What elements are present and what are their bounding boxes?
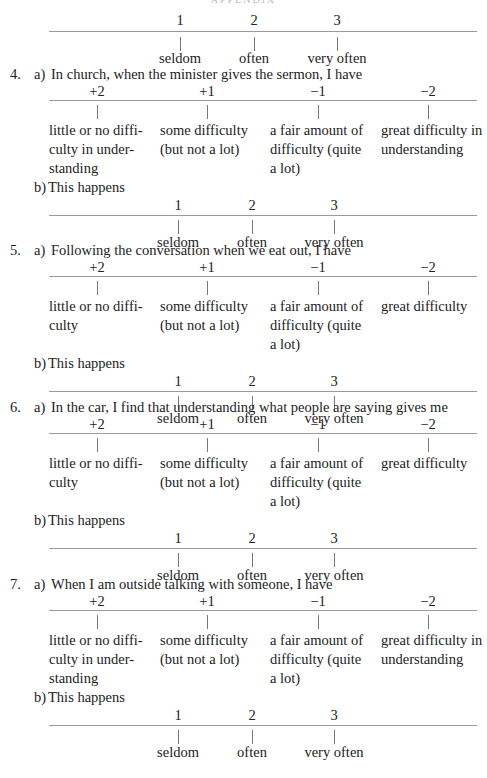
difficulty-tick-4[interactable] <box>428 105 429 119</box>
difficulty-number: −1 <box>298 259 338 275</box>
difficulty-tick-2[interactable] <box>207 438 208 452</box>
question-number: 4. <box>10 65 34 83</box>
difficulty-option-3[interactable]: a fair amount ofdifficulty (quitea lot) <box>270 454 374 511</box>
difficulty-tick-1[interactable] <box>97 105 98 119</box>
part-marker: a) <box>34 65 51 83</box>
question-prompt: 6.a)In the car, I find that understandin… <box>10 398 448 416</box>
part-marker: b) <box>34 688 48 706</box>
option-line: culty <box>49 473 153 492</box>
difficulty-tick-2[interactable] <box>207 615 208 629</box>
frequency-tick-3[interactable] <box>334 220 335 234</box>
option-line: culty in under- <box>49 650 153 669</box>
difficulty-option-1[interactable]: little or no diffi-culty in under-standi… <box>49 631 153 688</box>
scale-number: 1 <box>160 12 200 28</box>
option-line: (but not a lot) <box>160 316 264 335</box>
option-line: great difficulty <box>381 454 485 473</box>
difficulty-number: −1 <box>298 83 338 99</box>
difficulty-tick-1[interactable] <box>97 615 98 629</box>
option-line: little or no diffi- <box>49 631 153 650</box>
option-line: some difficulty <box>160 297 264 316</box>
option-line: difficulty (quite <box>270 650 374 669</box>
difficulty-option-3[interactable]: a fair amount ofdifficulty (quitea lot) <box>270 631 374 688</box>
frequency-scale-rule <box>49 391 477 392</box>
frequency-tick-3[interactable] <box>334 553 335 567</box>
part-marker: a) <box>34 575 51 593</box>
difficulty-tick-3[interactable] <box>318 438 319 452</box>
difficulty-option-2[interactable]: some difficulty(but not a lot) <box>160 631 264 669</box>
difficulty-tick-3[interactable] <box>318 615 319 629</box>
option-line: a fair amount of <box>270 297 374 316</box>
scale-tick-1[interactable] <box>180 37 181 51</box>
option-line: understanding <box>381 140 485 159</box>
scale-label: very often <box>292 50 382 66</box>
frequency-tick-1[interactable] <box>178 220 179 234</box>
question-number: 7. <box>10 575 34 593</box>
option-line: little or no diffi- <box>49 297 153 316</box>
option-line: a fair amount of <box>270 121 374 140</box>
difficulty-tick-2[interactable] <box>207 105 208 119</box>
difficulty-number: −1 <box>298 593 338 609</box>
frequency-number: 3 <box>314 530 354 546</box>
option-line: great difficulty in <box>381 631 485 650</box>
frequency-tick-2[interactable] <box>252 220 253 234</box>
difficulty-option-4[interactable]: great difficulty <box>381 454 485 473</box>
difficulty-number: −2 <box>408 593 448 609</box>
difficulty-option-2[interactable]: some difficulty(but not a lot) <box>160 121 264 159</box>
part-marker: a) <box>34 398 51 416</box>
difficulty-scale-rule <box>49 433 477 434</box>
frequency-tick-1[interactable] <box>178 553 179 567</box>
difficulty-option-1[interactable]: little or no diffi-culty in under-standi… <box>49 121 153 178</box>
difficulty-option-1[interactable]: little or no diffi-culty <box>49 297 153 335</box>
option-line: culty in under- <box>49 140 153 159</box>
option-line: great difficulty in <box>381 121 485 140</box>
difficulty-option-3[interactable]: a fair amount ofdifficulty (quitea lot) <box>270 121 374 178</box>
frequency-tick-2[interactable] <box>252 553 253 567</box>
option-line: (but not a lot) <box>160 473 264 492</box>
difficulty-option-2[interactable]: some difficulty(but not a lot) <box>160 454 264 492</box>
frequency-tick-3[interactable] <box>334 730 335 744</box>
difficulty-tick-3[interactable] <box>318 281 319 295</box>
difficulty-tick-4[interactable] <box>428 281 429 295</box>
difficulty-option-1[interactable]: little or no diffi-culty <box>49 454 153 492</box>
frequency-number: 1 <box>158 373 198 389</box>
option-line: little or no diffi- <box>49 121 153 140</box>
difficulty-tick-1[interactable] <box>97 281 98 295</box>
scale-tick-3[interactable] <box>337 37 338 51</box>
option-line: culty <box>49 316 153 335</box>
difficulty-option-2[interactable]: some difficulty(but not a lot) <box>160 297 264 335</box>
option-line: a lot) <box>270 335 374 354</box>
difficulty-option-4[interactable]: great difficulty inunderstanding <box>381 631 485 669</box>
scale-tick-2[interactable] <box>254 37 255 51</box>
frequency-number: 2 <box>232 373 272 389</box>
difficulty-option-4[interactable]: great difficulty <box>381 297 485 316</box>
option-line: some difficulty <box>160 121 264 140</box>
part-marker: b) <box>34 354 48 372</box>
difficulty-number: +2 <box>77 593 117 609</box>
question-number: 5. <box>10 241 34 259</box>
difficulty-tick-4[interactable] <box>428 438 429 452</box>
difficulty-tick-3[interactable] <box>318 105 319 119</box>
difficulty-number: −1 <box>298 416 338 432</box>
prompt-text: This happens <box>48 179 125 195</box>
difficulty-number: +1 <box>187 259 227 275</box>
difficulty-tick-2[interactable] <box>207 281 208 295</box>
frequency-number: 1 <box>158 197 198 213</box>
prompt-text: In the car, I find that understanding wh… <box>51 399 448 415</box>
difficulty-option-3[interactable]: a fair amount ofdifficulty (quitea lot) <box>270 297 374 354</box>
difficulty-tick-1[interactable] <box>97 438 98 452</box>
frequency-number: 2 <box>232 707 272 723</box>
scale-number: 3 <box>317 12 357 28</box>
difficulty-tick-4[interactable] <box>428 615 429 629</box>
difficulty-number: +2 <box>77 83 117 99</box>
frequency-prompt: b)This happens <box>34 688 125 706</box>
option-line: little or no diffi- <box>49 454 153 473</box>
frequency-tick-1[interactable] <box>178 730 179 744</box>
frequency-tick-2[interactable] <box>252 730 253 744</box>
difficulty-option-4[interactable]: great difficulty inunderstanding <box>381 121 485 159</box>
prompt-text: In church, when the minister gives the s… <box>51 66 362 82</box>
prompt-text: This happens <box>48 355 125 371</box>
prompt-text: This happens <box>48 512 125 528</box>
frequency-label: often <box>207 744 297 760</box>
option-line: difficulty (quite <box>270 316 374 335</box>
prompt-text: This happens <box>48 689 125 705</box>
